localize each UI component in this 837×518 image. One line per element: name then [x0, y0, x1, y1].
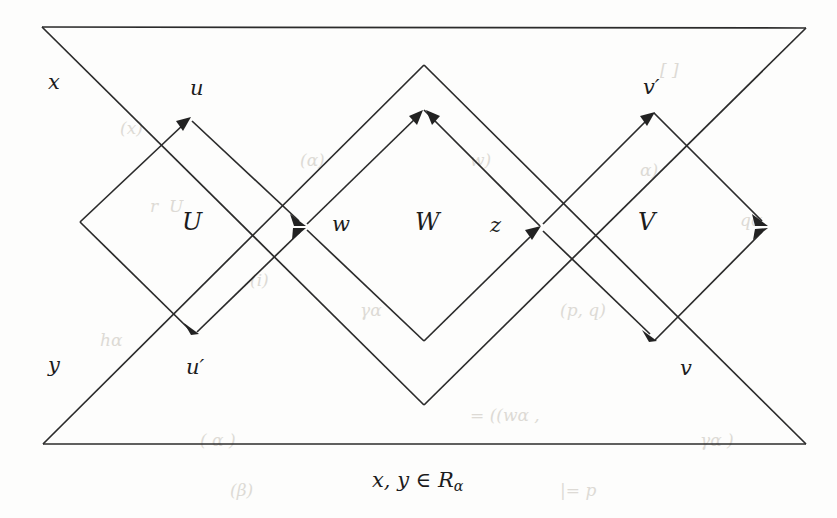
arrowhead-right-apex-upper: [752, 214, 768, 226]
vertex-label-y: y: [48, 355, 60, 376]
caption-subscript: α: [454, 478, 464, 494]
diagram-svg: [0, 0, 837, 518]
region-label-z: z: [490, 215, 501, 236]
arrowhead-v: [642, 330, 657, 342]
figure-caption: x, y ∈ Rα: [372, 470, 463, 493]
arrowhead-z: [525, 226, 541, 240]
vertex-label-x: x: [48, 72, 60, 93]
arrowhead-u-prime: [184, 323, 199, 335]
vertex-label-u: u: [190, 78, 204, 99]
caption-set: R: [438, 468, 454, 492]
figure-canvas: (x) r U (α) (i) γα w) (p, q) α) qα ( α )…: [0, 0, 837, 518]
region-label-W: W: [415, 210, 440, 234]
arrowhead-w-upper: [290, 214, 306, 226]
vertex-label-v: v: [680, 358, 692, 379]
region-label-U: U: [182, 210, 202, 234]
vertex-label-v-prime: v′: [643, 77, 660, 98]
caption-member: ∈: [416, 468, 432, 492]
caption-vars: x, y: [372, 468, 409, 492]
region-label-w: w: [332, 214, 350, 235]
arrowhead-right-apex-lower: [753, 228, 768, 240]
outer-triangle-up: [43, 65, 806, 444]
vertex-label-u-prime: u′: [186, 357, 204, 378]
region-label-V: V: [638, 210, 655, 234]
